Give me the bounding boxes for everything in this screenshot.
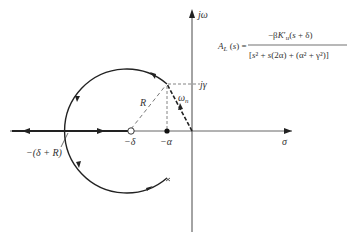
transfer-function-equation: AL (s) = −βK′u(s + δ) [s² + s(2α) + (α² … <box>217 30 347 60</box>
radius-label: R <box>139 97 146 108</box>
omega-n-label: ωn <box>178 92 189 105</box>
minus-delta-label: −δ <box>124 136 136 147</box>
radius-line <box>131 85 166 129</box>
real-axis-locus <box>12 128 130 134</box>
imag-axis-label: jω <box>196 9 208 20</box>
j-gamma-label: jγ <box>198 79 208 90</box>
alpha-point <box>164 128 169 133</box>
root-locus-diagram: jω σ jγ ωn R −δ −α −(δ + R) AL (s) = −βK… <box>0 0 349 236</box>
minus-alpha-label: −α <box>160 136 173 147</box>
zero-marker <box>128 128 134 134</box>
equation-denominator: [s² + s(2α) + (α² + γ²)] <box>249 50 329 60</box>
svg-text:AL (s) =: AL (s) = <box>217 41 247 53</box>
imaginary-axis <box>189 9 195 232</box>
pole-marker <box>166 178 170 181</box>
real-axis-label: σ <box>282 136 288 147</box>
breakaway-label: −(δ + R) <box>26 147 63 159</box>
equation-numerator: −βK′u(s + δ) <box>268 30 312 42</box>
